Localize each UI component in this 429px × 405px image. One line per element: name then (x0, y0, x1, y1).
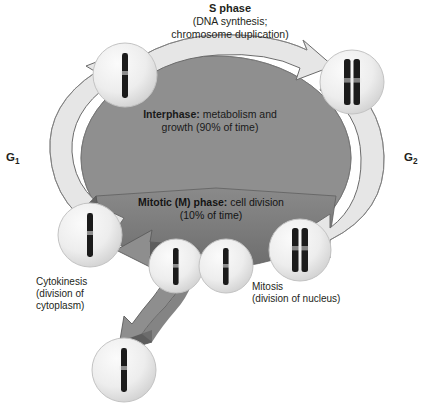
s-phase-line2: chromosome duplication) (152, 28, 308, 41)
cytokinesis-line3: cytoplasm) (36, 300, 128, 312)
cytokinesis-line1: Cytokinesis (36, 276, 128, 288)
interphase-bold: Interphase: (143, 108, 200, 120)
label-g1-phase: G1 (6, 150, 32, 167)
g2-text: G (404, 151, 413, 163)
interphase-rest: metabolism and (200, 108, 277, 120)
cell-s-phase-right (320, 50, 384, 114)
cell-mitosis-right (269, 219, 331, 281)
label-g2-phase: G2 (404, 150, 429, 167)
cell-cycle-diagram: S phase (DNA synthesis; chromosome dupli… (0, 0, 429, 405)
cell-telophase-right (199, 239, 253, 293)
mitotic-line2: (10% of time) (108, 209, 314, 222)
g1-text: G (6, 151, 15, 163)
label-mitosis: Mitosis (division of nucleus) (252, 281, 372, 305)
label-interphase: Interphase: metabolism and growth (90% o… (112, 108, 308, 134)
interphase-line1: Interphase: metabolism and (112, 108, 308, 121)
mitosis-line1: Mitosis (252, 281, 372, 293)
cell-telophase-left (149, 239, 203, 293)
s-phase-title: S phase (152, 2, 308, 15)
label-s-phase: S phase (DNA synthesis; chromosome dupli… (152, 2, 308, 41)
mitotic-line1: Mitotic (M) phase: cell division (108, 196, 314, 209)
mitosis-line2: (division of nucleus) (252, 293, 372, 305)
label-cytokinesis: Cytokinesis (division of cytoplasm) (36, 276, 128, 313)
mitotic-bold: Mitotic (M) phase: (138, 196, 227, 208)
cell-g1-top-left (93, 43, 157, 107)
s-phase-line1: (DNA synthesis; (152, 15, 308, 28)
cell-daughter-bottom (92, 338, 156, 402)
mitotic-rest: cell division (227, 196, 284, 208)
label-mitotic-phase: Mitotic (M) phase: cell division (10% of… (108, 196, 314, 222)
g1-subscript: 1 (15, 157, 20, 166)
cytokinesis-line2: (division of (36, 288, 128, 300)
interphase-line2: growth (90% of time) (112, 121, 308, 134)
g2-subscript: 2 (413, 157, 418, 166)
